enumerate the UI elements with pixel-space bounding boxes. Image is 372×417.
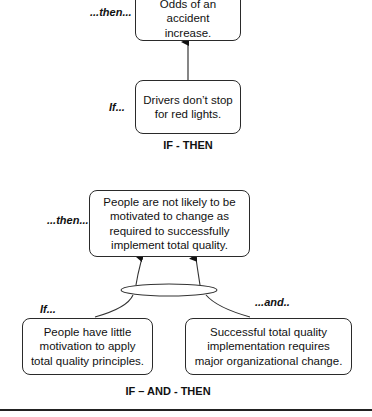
if-box-1-text: Drivers don’t stop for red lights. [142, 93, 234, 122]
if-box-2-text: People have little motivation to apply t… [29, 325, 146, 369]
bottom-rule [0, 409, 372, 411]
and-label-2: ...and.. [255, 296, 290, 308]
caption-if-then: IF - THEN [163, 139, 213, 151]
and-box-2-text: Successful total quality implementation … [192, 325, 345, 369]
if-box-2: People have little motivation to apply t… [22, 318, 153, 375]
then-box-2-text: People are not likely to be motivated to… [100, 195, 239, 253]
and-junction-ellipse [121, 284, 217, 296]
arrow-left-to-then [136, 258, 142, 285]
and-box-2: Successful total quality implementation … [185, 318, 352, 375]
then-box-1-text: Odds of an accident increase. [142, 0, 234, 40]
if-label-1: If... [109, 101, 125, 113]
then-label-2: ...then... [47, 214, 89, 226]
if-box-1: Drivers don’t stop for red lights. [135, 80, 241, 134]
connector-and-box [206, 295, 250, 317]
if-label-2: If... [40, 303, 56, 315]
then-label-1: ...then... [90, 6, 132, 18]
then-box-2: People are not likely to be motivated to… [89, 190, 250, 257]
arrow-right-to-then [196, 258, 200, 285]
then-box-1: Odds of an accident increase. [135, 0, 241, 41]
connector-if-box [95, 295, 133, 317]
caption-if-and-then: IF – AND - THEN [125, 385, 210, 397]
